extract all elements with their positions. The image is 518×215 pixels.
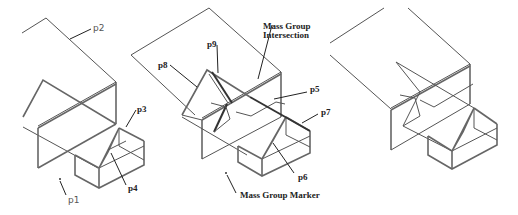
wall-bottom (391, 104, 470, 150)
wing-box-back (119, 128, 144, 160)
wing-roof (99, 128, 119, 168)
panel-1-before: p2 p3 p4 p1 (22, 18, 147, 205)
intersection-edge-3 (214, 104, 227, 132)
label-p3: p3 (137, 104, 147, 114)
label-mass-group-marker: Mass Group Marker (240, 190, 320, 200)
wing-box-back (474, 108, 497, 140)
leader-p5 (274, 92, 307, 99)
label-p1: p1 (68, 195, 79, 205)
label-p8: p8 (158, 60, 168, 70)
panel-3-result (330, 8, 497, 169)
mass-group-marker-point (225, 172, 227, 174)
intersection-edge-2 (209, 74, 228, 103)
mass-group-diagram: p2 p3 p4 p1 (0, 0, 518, 215)
ridge-line-2 (38, 82, 116, 126)
leader-p7 (302, 114, 318, 123)
wing-roof (452, 108, 474, 151)
wing-box-top (474, 108, 497, 124)
label-p9: p9 (207, 39, 217, 49)
label-p5: p5 (310, 84, 320, 94)
marker-point-p1 (59, 178, 61, 180)
ridge-line (391, 66, 470, 110)
wing-box-back (286, 117, 310, 147)
label-p7: p7 (321, 107, 331, 117)
wing-box-top (119, 128, 144, 141)
label-p6: p6 (298, 172, 308, 182)
gable-edge (23, 80, 116, 124)
wing-box-front (75, 155, 99, 188)
leader-p3 (126, 110, 136, 127)
label-p4: p4 (128, 183, 138, 193)
leader-marker (227, 175, 236, 193)
intersection-edge (212, 72, 232, 103)
leader-p2 (70, 29, 91, 39)
roof-plane-edge (131, 8, 281, 72)
ridge-line-2 (202, 72, 281, 118)
roof-plane-edge (330, 8, 384, 43)
roof-plane-edge-right (408, 8, 470, 64)
label-intersection-line2: Intersection (263, 30, 309, 40)
wall-bottom (202, 117, 281, 159)
leader-p1 (60, 181, 66, 195)
ridge-line (38, 84, 116, 128)
wing-box-front (238, 146, 262, 176)
leader-p8 (170, 65, 197, 87)
intersection-plane (236, 102, 285, 116)
wall-bottom (38, 124, 116, 168)
panel-2-intersection: Mass Group Intersection p9 p8 p5 p7 p6 M… (131, 8, 331, 200)
roof-plane-edge-left (330, 55, 391, 109)
label-p2: p2 (93, 23, 104, 33)
leader-p9 (217, 45, 218, 73)
